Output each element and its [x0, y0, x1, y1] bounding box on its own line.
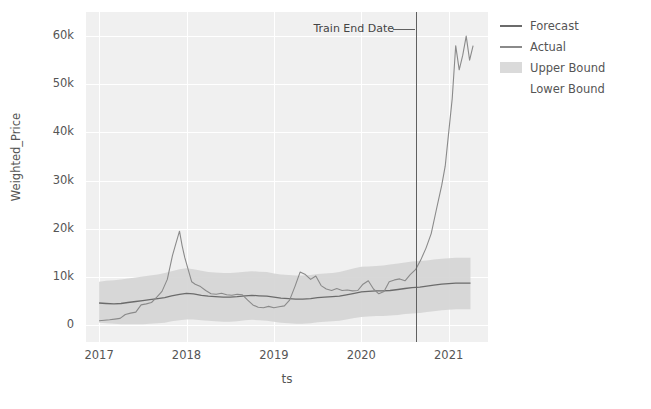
x-tick-label: 2021: [434, 348, 463, 362]
train-end-date-label: Train End Date: [313, 22, 394, 35]
x-tick-label: 2019: [259, 348, 288, 362]
legend-item-upper-bound: Upper Bound: [500, 58, 650, 77]
legend-item-lower-bound: Lower Bound: [500, 79, 650, 98]
x-tick-label: 2020: [347, 348, 376, 362]
legend-label-upper-bound: Upper Bound: [530, 61, 605, 75]
legend-label-forecast: Forecast: [530, 19, 579, 33]
legend-item-actual: Actual: [500, 37, 650, 56]
legend-swatch-forecast: [500, 25, 522, 27]
y-axis-title: Weighted_Price: [9, 77, 23, 237]
legend-label-lower-bound: Lower Bound: [530, 82, 605, 96]
x-tick-label: 2018: [172, 348, 201, 362]
chart-container: 010k20k30k40k50k60k 20172018201920202021…: [0, 0, 651, 409]
x-axis-title: ts: [86, 372, 488, 386]
legend-swatch-lower-bound: [500, 88, 522, 90]
legend-item-forecast: Forecast: [500, 16, 650, 35]
legend-label-actual: Actual: [530, 40, 566, 54]
chart-legend: Forecast Actual Upper Bound Lower Bound: [500, 16, 650, 100]
legend-swatch-actual: [500, 46, 522, 48]
train-end-date-line: [416, 12, 417, 342]
train-end-date-leader: [393, 29, 415, 30]
x-tick-label: 2017: [84, 348, 113, 362]
legend-swatch-upper-bound: [500, 62, 522, 73]
